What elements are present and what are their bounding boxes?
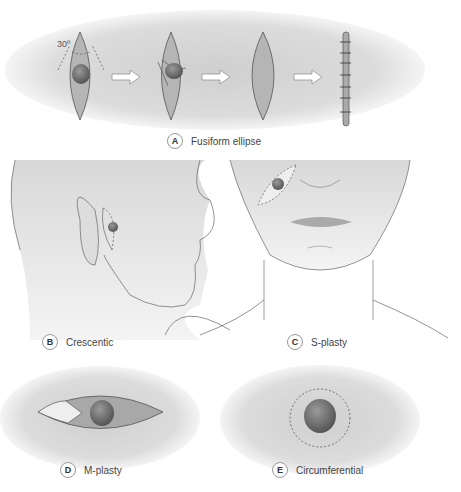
caption-c-label: S-plasty — [311, 337, 347, 348]
caption-c: C S-plasty — [287, 334, 347, 350]
badge-c: C — [287, 334, 303, 350]
caption-e-label: Circumferential — [296, 465, 363, 476]
caption-d-label: M-plasty — [84, 465, 122, 476]
excision-diagram: 30º — [0, 0, 461, 492]
panel-e-circumferential — [220, 365, 420, 475]
caption-b: B Crescentic — [42, 334, 113, 350]
badge-a: A — [167, 133, 183, 149]
caption-b-label: Crescentic — [66, 337, 113, 348]
panel-d-m-plasty — [0, 366, 200, 470]
panel-b-crescentic — [11, 160, 230, 340]
angle-label: 30º — [57, 39, 71, 49]
caption-a-label: Fusiform ellipse — [191, 136, 261, 147]
caption-a: A Fusiform ellipse — [167, 133, 261, 149]
badge-b: B — [42, 334, 58, 350]
caption-d: D M-plasty — [60, 462, 122, 478]
badge-d: D — [60, 462, 76, 478]
panel-c-s-plasty — [200, 160, 448, 338]
caption-e: E Circumferential — [272, 462, 363, 478]
panel-a-fusiform: 30º — [5, 10, 425, 130]
badge-e: E — [272, 462, 288, 478]
